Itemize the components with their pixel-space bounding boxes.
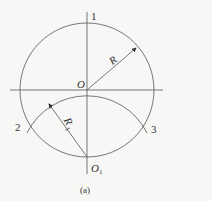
label-center-o1-sub: 1 — [99, 168, 103, 176]
label-point-2: 2 — [15, 121, 21, 133]
geometry-diagram: 1 2 3 O R R 1 O 1 (a) — [0, 0, 212, 201]
label-radius-r1: R — [61, 115, 75, 128]
label-radius-r: R — [106, 53, 120, 67]
label-point-3: 3 — [151, 123, 157, 135]
label-center-o1: O — [91, 162, 99, 174]
label-radius-r1-sub: 1 — [63, 126, 72, 133]
figure-caption: (a) — [80, 185, 90, 195]
label-point-1: 1 — [91, 10, 97, 22]
label-center-o: O — [77, 78, 85, 90]
